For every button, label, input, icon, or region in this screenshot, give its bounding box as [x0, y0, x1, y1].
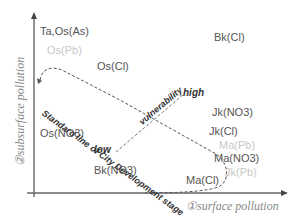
point-label: Jk(Cl)	[209, 125, 238, 137]
high-label: high	[183, 87, 204, 98]
point-label: Os(Pb)	[47, 44, 82, 56]
diagram-canvas: ②subsurface pollution ①surface pollution…	[0, 0, 304, 220]
point-label: Jk(NO3)	[212, 106, 253, 118]
low-label: low	[94, 144, 111, 155]
x-axis-arrow-icon	[281, 190, 288, 196]
y-axis-title: ②subsurface pollution	[13, 47, 28, 177]
point-label: Ma(Pb)	[219, 139, 255, 151]
x-axis-title: ①surface pollution	[186, 199, 279, 214]
point-label: Bk(Cl)	[214, 31, 245, 43]
y-axis-arrow-icon	[31, 12, 37, 19]
point-label: Ma(Cl)	[186, 174, 219, 186]
vulnerability-arrow	[116, 94, 184, 152]
point-label: Ta,Os(As)	[40, 25, 89, 37]
point-label: Jk(Pb)	[225, 166, 257, 178]
standard-line-arrow-icon	[37, 78, 42, 84]
point-label: Ma(NO3)	[214, 152, 259, 164]
point-label: Os(Cl)	[97, 60, 129, 72]
